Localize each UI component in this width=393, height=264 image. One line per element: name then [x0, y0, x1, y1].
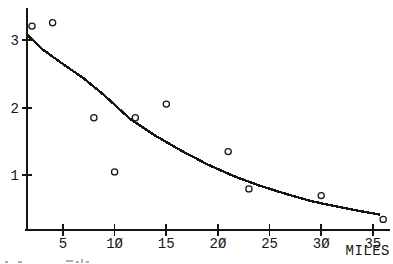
x-tick-label: 3Ø	[313, 236, 330, 252]
y-tick-label: 2	[11, 101, 19, 117]
fitted-curve-path	[27, 34, 380, 214]
x-tick-label: 15	[158, 236, 175, 252]
caption-glyph-top	[86, 261, 89, 263]
caption-glyph-top	[81, 259, 83, 263]
data-point	[50, 20, 56, 26]
data-point	[132, 115, 138, 121]
x-tick-label: 1Ø	[106, 236, 123, 252]
caption-glyph-top	[5, 261, 8, 263]
scatter-plot-figure: 51Ø152Ø253Ø35123 MILES	[0, 0, 393, 264]
x-tick-label: 2Ø	[209, 236, 226, 252]
data-point	[163, 101, 169, 107]
x-tick-label: 5	[59, 236, 67, 252]
data-point	[380, 216, 386, 222]
caption-glyph-top	[76, 261, 79, 263]
y-tick-label: 3	[11, 33, 19, 49]
data-point	[91, 115, 97, 121]
scatter-points	[29, 20, 386, 223]
fitted-curve	[27, 34, 380, 214]
caption-glyph-top	[66, 260, 73, 262]
caption-glyph-top	[18, 261, 22, 263]
x-axis-unit-label: MILES	[345, 244, 390, 258]
data-point	[318, 193, 324, 199]
data-point	[29, 23, 35, 29]
x-tick-label: 25	[261, 236, 278, 252]
chart-canvas: 51Ø152Ø253Ø35123	[0, 0, 393, 264]
y-tick-label: 1	[11, 168, 19, 184]
axes	[22, 8, 390, 236]
data-point	[225, 149, 231, 155]
data-point	[246, 186, 252, 192]
data-point	[112, 169, 118, 175]
